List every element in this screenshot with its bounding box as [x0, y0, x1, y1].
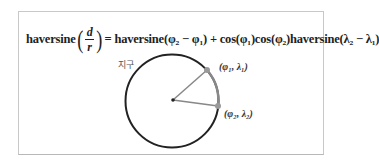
- earth-label: 지구: [118, 58, 134, 71]
- point-1: [204, 67, 210, 73]
- arc-between-points: [207, 70, 218, 106]
- radius-line-1: [173, 70, 207, 100]
- point-2: [215, 103, 221, 109]
- point2-label: (φ₂, λ₂): [224, 108, 253, 119]
- center-point: [171, 98, 175, 102]
- radius-line-2: [173, 100, 218, 106]
- point1-label: (φ₁, λ₁): [219, 61, 248, 72]
